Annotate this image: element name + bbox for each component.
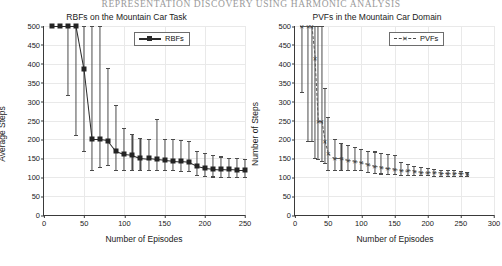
error-bar (140, 138, 141, 171)
error-bar-cap (147, 170, 151, 171)
legend-swatch-rbfs (139, 35, 161, 42)
data-point-square-marker (218, 166, 223, 171)
data-series-rbfs (44, 26, 245, 215)
error-bar-cap (90, 26, 94, 27)
error-bar-cap (147, 139, 151, 140)
error-bar-cap (74, 135, 78, 136)
y-tick-label: 50 (32, 192, 40, 201)
y-tick-label: 300 (27, 97, 40, 106)
error-bar (76, 26, 77, 135)
data-point-x-marker: ✕ (339, 156, 344, 161)
y-tick-label: 450 (27, 40, 40, 49)
x-tick-label: 250 (239, 219, 252, 228)
x-tick-label: 200 (421, 219, 434, 228)
plot-area-rbf: 0501001502002503003504004505000501001502… (43, 26, 245, 216)
error-bar-cap (187, 171, 191, 172)
data-point-x-marker: ✕ (405, 168, 410, 173)
legend-pvf: ✕ PVFs (389, 32, 444, 46)
data-point-x-marker: ✕ (322, 139, 327, 144)
error-bar-cap (130, 134, 134, 135)
data-point-square-marker (50, 24, 55, 29)
error-bar-cap (353, 147, 357, 148)
gridline-vertical (245, 26, 246, 215)
error-bar-cap (163, 170, 167, 171)
legend-rbf: RBFs (134, 32, 190, 46)
data-point-square-marker (162, 158, 167, 163)
data-point-x-marker: ✕ (309, 24, 314, 29)
y-tick-label: 500 (278, 22, 291, 31)
error-bar-cap (386, 154, 390, 155)
data-point-x-marker: ✕ (438, 170, 443, 175)
error-bar (116, 105, 117, 169)
error-bar-cap (346, 170, 350, 171)
error-bar-cap (155, 170, 159, 171)
error-bar-cap (333, 170, 337, 171)
error-bar (164, 139, 165, 170)
x-tick-label: 300 (488, 219, 501, 228)
y-tick-label: 300 (278, 97, 291, 106)
y-tick-label: 500 (27, 22, 40, 31)
error-bar-cap (227, 177, 231, 178)
error-bar-cap (155, 119, 159, 120)
data-point-square-marker (138, 155, 143, 160)
x-marker-icon: ✕ (402, 36, 407, 41)
error-bar-cap (98, 26, 102, 27)
data-point-square-marker (186, 160, 191, 165)
data-point-square-marker (98, 137, 103, 142)
error-bar-cap (379, 153, 383, 154)
error-bar-cap (366, 151, 370, 152)
data-point-square-marker (58, 24, 63, 29)
y-tick-label: 350 (27, 78, 40, 87)
error-bar-cap (310, 141, 314, 142)
error-bar (172, 139, 173, 170)
data-point-x-marker: ✕ (299, 24, 304, 29)
y-tick-label: 200 (27, 135, 40, 144)
error-bar-cap (82, 26, 86, 27)
error-bar-cap (195, 175, 199, 176)
error-bar-cap (66, 95, 70, 96)
data-point-square-marker (90, 137, 95, 142)
data-point-x-marker: ✕ (385, 165, 390, 170)
error-bar-cap (399, 162, 403, 163)
y-tick-label: 350 (278, 78, 291, 87)
error-bar (308, 26, 309, 141)
data-point-square-marker (66, 24, 71, 29)
error-bar-cap (114, 105, 118, 106)
error-bar-cap (219, 177, 223, 178)
error-bar-cap (393, 174, 397, 175)
data-point-x-marker: ✕ (352, 158, 357, 163)
data-series-pvfs: ✕✕✕✕✕✕✕✕✕✕✕✕✕✕✕✕✕✕✕✕✕✕✕✕✕✕✕✕✕ (295, 26, 494, 215)
error-bar-cap (243, 159, 247, 160)
data-point-x-marker: ✕ (458, 171, 463, 176)
error-bar-cap (333, 139, 337, 140)
figure-pvf: PVFs in the Mountain Car Domain Number o… (253, 8, 501, 260)
error-bar-cap (179, 171, 183, 172)
error-bar-cap (203, 176, 207, 177)
error-bar (301, 26, 302, 92)
data-point-square-marker (130, 152, 135, 157)
error-bar-cap (130, 170, 134, 171)
data-point-square-marker (202, 165, 207, 170)
x-tick-label: 100 (355, 219, 368, 228)
legend-label-pvfs: PVFs (420, 35, 438, 43)
y-tick-label: 100 (278, 173, 291, 182)
error-bar-cap (326, 117, 330, 118)
x-axis-label-rbf: Number of Episodes (43, 234, 245, 244)
error-bar-cap (359, 170, 363, 171)
data-point-x-marker: ✕ (419, 169, 424, 174)
data-point-x-marker: ✕ (399, 167, 404, 172)
x-tick-label: 250 (455, 219, 468, 228)
error-bar (92, 26, 93, 170)
error-bar-cap (326, 170, 330, 171)
error-bar-cap (373, 151, 377, 152)
data-point-square-marker (82, 67, 87, 72)
data-point-square-marker (210, 166, 215, 171)
error-bar-cap (426, 175, 430, 176)
x-tick-label: 0 (42, 219, 46, 228)
error-bar-cap (227, 158, 231, 159)
error-bar (124, 128, 125, 170)
error-bar-cap (359, 149, 363, 150)
error-bar-cap (243, 177, 247, 178)
data-point-x-marker: ✕ (392, 166, 397, 171)
error-bar-cap (98, 167, 102, 168)
